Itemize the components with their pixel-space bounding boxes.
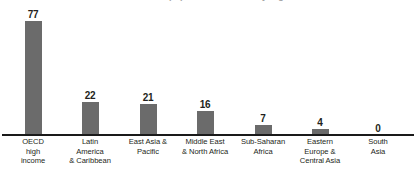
bar[interactable] <box>197 111 214 135</box>
category-label-line: Asia <box>346 147 410 157</box>
category-label-line: Middle East <box>173 137 237 147</box>
bar-value-label: 22 <box>85 90 96 101</box>
bar-value-label: 7 <box>260 113 265 124</box>
bar-chart: Percent of the population covered by reg… <box>0 0 416 175</box>
bar-value-label: 4 <box>317 117 322 128</box>
category-label-line: America <box>58 147 122 157</box>
category-label-line: Sub-Saharan <box>231 137 295 147</box>
category-label-line: Central Asia <box>288 156 352 166</box>
x-axis-line <box>2 134 414 136</box>
bar[interactable] <box>140 104 157 135</box>
category-label-line: Europe & <box>288 147 352 157</box>
category-label: SouthAsia <box>346 137 410 156</box>
category-label-line: Eastern <box>288 137 352 147</box>
category-label-line: income <box>1 156 65 166</box>
x-axis-category-labels: OECDhighincomeLatinAmerica& CaribbeanEas… <box>0 137 416 175</box>
category-label-line: & Caribbean <box>58 156 122 166</box>
bar-group: 22 <box>62 0 119 135</box>
category-label-line: high <box>1 147 65 157</box>
category-label: OECDhighincome <box>1 137 65 166</box>
bar-value-label: 0 <box>375 123 380 134</box>
bar-value-label: 21 <box>143 92 154 103</box>
bar-group: 16 <box>177 0 234 135</box>
category-label-line: East Asia & <box>116 137 180 147</box>
bar-group: 7 <box>235 0 292 135</box>
category-label: Middle East& North Africa <box>173 137 237 156</box>
category-label: Sub-SaharanAfrica <box>231 137 295 156</box>
bar-group: 4 <box>292 0 349 135</box>
bar-group: 21 <box>120 0 177 135</box>
bar[interactable] <box>25 21 42 135</box>
bar-group: 77 <box>5 0 62 135</box>
bar-value-label: 77 <box>28 9 39 20</box>
category-label: EasternEurope &Central Asia <box>288 137 352 166</box>
category-label: LatinAmerica& Caribbean <box>58 137 122 166</box>
category-label: East Asia &Pacific <box>116 137 180 156</box>
bar-group: 0 <box>350 0 407 135</box>
category-label-line: Latin <box>58 137 122 147</box>
category-label-line: South <box>346 137 410 147</box>
plot-area: 77222116740 <box>0 0 416 135</box>
bar[interactable] <box>82 102 99 135</box>
category-label-line: Pacific <box>116 147 180 157</box>
category-label-line: OECD <box>1 137 65 147</box>
bar-value-label: 16 <box>200 99 211 110</box>
category-label-line: Africa <box>231 147 295 157</box>
category-label-line: & North Africa <box>173 147 237 157</box>
